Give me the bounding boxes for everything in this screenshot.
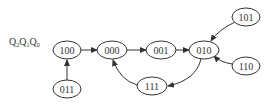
state-node-111: 111 — [137, 77, 167, 95]
svg-text:011: 011 — [60, 84, 75, 95]
state-diagram: Q2Q1Q0 100 000 001 010 101 110 011 111 — [0, 0, 269, 104]
edge-010-to-111 — [168, 59, 201, 86]
state-node-100: 100 — [53, 41, 81, 59]
svg-text:000: 000 — [105, 45, 120, 56]
state-node-101: 101 — [232, 8, 260, 26]
svg-text:100: 100 — [60, 45, 75, 56]
svg-text:101: 101 — [239, 12, 254, 23]
svg-text:010: 010 — [197, 45, 212, 56]
state-node-001: 001 — [146, 41, 176, 59]
state-node-010: 010 — [189, 41, 219, 59]
state-node-011: 011 — [53, 80, 81, 98]
svg-text:110: 110 — [239, 61, 254, 72]
state-node-000: 000 — [97, 41, 127, 59]
state-variable-label: Q2Q1Q0 — [9, 36, 40, 48]
svg-text:001: 001 — [154, 45, 169, 56]
edge-101-to-010 — [211, 22, 235, 41]
svg-text:111: 111 — [145, 81, 159, 92]
edge-111-to-000 — [113, 60, 137, 85]
edge-110-to-010 — [214, 56, 232, 64]
state-node-110: 110 — [232, 57, 260, 75]
